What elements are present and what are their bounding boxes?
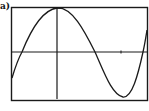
- plot-area: [0, 0, 149, 111]
- viewing-window-frame: [12, 8, 148, 101]
